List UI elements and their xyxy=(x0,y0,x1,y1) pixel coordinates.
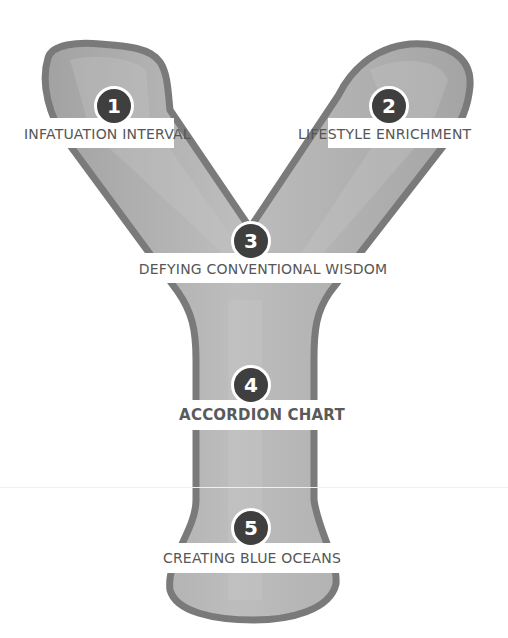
step-badge-1: 1 xyxy=(94,86,134,126)
step-badge-2: 2 xyxy=(369,86,409,126)
step-label-3: DEFYING CONVENTIONAL WISDOM xyxy=(0,260,508,278)
step-label-5: CREATING BLUE OCEANS xyxy=(0,549,504,567)
step-label-4: ACCORDION CHART xyxy=(0,406,508,424)
step-label-1: INFATUATION INTERVAL xyxy=(24,125,204,143)
step-badge-5: 5 xyxy=(231,508,271,548)
divider-line xyxy=(0,487,508,488)
y-diagram: 1 INFATUATION INTERVAL 2 LIFESTYLE ENRIC… xyxy=(0,0,508,638)
step-label-2: LIFESTYLE ENRICHMENT xyxy=(298,125,498,143)
step-badge-3: 3 xyxy=(231,221,271,261)
step-badge-4: 4 xyxy=(231,365,271,405)
